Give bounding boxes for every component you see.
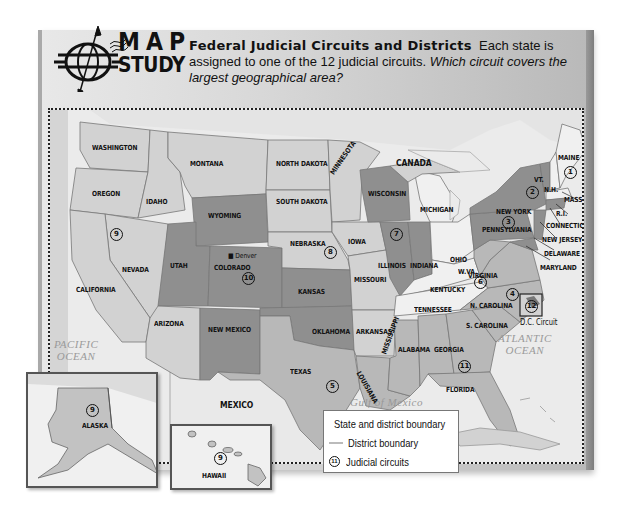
state-new-mexico: NEW MEXICO [208, 326, 251, 334]
state-west-virginia: W.VA. [458, 268, 477, 276]
state-arizona: ARIZONA [154, 320, 184, 328]
state-south-carolina: S. CAROLINA [466, 322, 508, 330]
alaska-shape [28, 374, 158, 488]
state-missouri: MISSOURI [354, 276, 386, 284]
state-connecticut: CONNECTICUT [546, 222, 584, 230]
panel-edge [586, 30, 594, 470]
circuit-1-marker: 1 [564, 166, 577, 179]
label-pacific-ocean: PACIFIC OCEAN [54, 338, 98, 362]
state-maryland: MARYLAND [540, 264, 577, 272]
state-montana: MONTANA [190, 160, 223, 168]
state-new-hampshire: N.H. [544, 186, 558, 194]
map-title: Federal Judicial Circuits and Districts [189, 38, 472, 53]
state-kentucky: KENTUCKY [430, 286, 465, 294]
label-dc-circuit: D.C. Circuit [520, 318, 557, 327]
state-washington: WASHINGTON [92, 144, 137, 152]
state-rhode-island: R.I. [556, 210, 567, 218]
legend-label: District boundary [348, 437, 418, 449]
circuit-11-marker: 11 [458, 360, 471, 373]
map-legend: State and district boundary District bou… [323, 410, 459, 473]
circuit-5-marker: 5 [326, 380, 339, 393]
legend-state-boundary: State and district boundary [329, 414, 453, 433]
circuit-6-marker: 6 [474, 276, 487, 289]
circuit-9-marker: 9 [110, 228, 123, 241]
state-indiana: INDIANA [410, 262, 438, 270]
logo-map-text: MAP [118, 31, 191, 53]
alaska-inset: 9 ALASKA [26, 372, 158, 488]
circuit-2-marker: 2 [526, 186, 539, 199]
legend-label: Judicial circuits [346, 456, 409, 468]
state-wyoming: WYOMING [208, 212, 241, 220]
state-florida: FLORIDA [446, 386, 474, 394]
state-idaho: IDAHO [146, 198, 167, 206]
header-text: Federal Judicial Circuits and Districts … [189, 38, 589, 86]
label-atlantic-ocean: ATLANTIC OCEAN [498, 332, 552, 356]
state-vermont: VT. [534, 176, 544, 184]
state-michigan: MICHIGAN [420, 206, 453, 214]
circuit-10-marker: 10 [242, 272, 255, 285]
label-mexico: MEXICO [220, 400, 253, 410]
state-nevada: NEVADA [122, 266, 149, 274]
hawaii-inset: 9 HAWAII [170, 424, 272, 490]
pacific-line1: PACIFIC [54, 338, 98, 350]
state-maine: MAINE [558, 154, 579, 162]
label-gulf-of-mexico: Gulf of Mexico [350, 396, 423, 408]
state-texas: TEXAS [290, 368, 311, 376]
state-south-dakota: SOUTH DAKOTA [276, 198, 327, 206]
atlantic-line1: ATLANTIC [498, 332, 552, 344]
state-iowa: IOWA [348, 238, 366, 246]
state-tennessee: TENNESSEE [414, 306, 452, 314]
state-nebraska: NEBRASKA [290, 240, 326, 248]
state-massachusetts: MASS. [564, 196, 584, 204]
label-canada: CANADA [396, 158, 432, 168]
state-delaware: DELAWARE [544, 250, 580, 258]
circuit-9-hawaii-marker: 9 [214, 452, 227, 465]
circuit-8-marker: 8 [324, 246, 337, 259]
state-new-jersey: NEW JERSEY [542, 236, 582, 244]
state-north-carolina: N. CAROLINA [470, 302, 513, 310]
state-alabama: ALABAMA [398, 346, 430, 354]
circuit-7-marker: 7 [390, 228, 403, 241]
state-oregon: OREGON [92, 190, 120, 198]
circuit-3-marker: 3 [502, 216, 515, 229]
circuit-9-alaska-marker: 9 [86, 404, 99, 417]
state-georgia: GEORGIA [434, 346, 464, 354]
city-denver: ■ Denver [228, 252, 256, 260]
state-new-york: NEW YORK [496, 208, 531, 216]
atlantic-line2: OCEAN [498, 344, 552, 356]
state-wisconsin: WISCONSIN [368, 190, 406, 198]
state-utah: UTAH [170, 262, 188, 270]
state-ohio: OHIO [450, 256, 467, 264]
state-california: CALIFORNIA [76, 286, 116, 294]
circuit-symbol-icon: 11 [329, 456, 340, 467]
state-alaska: ALASKA [82, 422, 108, 430]
legend-label: State and district boundary [334, 418, 445, 430]
legend-district-boundary: District boundary [329, 433, 453, 452]
logo-study-text: STUDY [118, 54, 185, 76]
circuit-4-marker: 4 [506, 288, 519, 301]
state-north-dakota: NORTH DAKOTA [276, 160, 328, 168]
legend-judicial-circuits: 11 Judicial circuits [329, 452, 453, 471]
district-boundary-swatch [329, 442, 343, 444]
denver-label: Denver [235, 252, 256, 260]
state-hawaii: HAWAII [202, 472, 226, 480]
state-illinois: ILLINOIS [378, 262, 406, 270]
state-oklahoma: OKLAHOMA [312, 328, 350, 336]
pacific-line2: OCEAN [54, 350, 98, 362]
state-kansas: KANSAS [298, 288, 325, 296]
circuit-12-marker: 12 [525, 300, 538, 313]
state-colorado: COLORADO [214, 264, 251, 272]
